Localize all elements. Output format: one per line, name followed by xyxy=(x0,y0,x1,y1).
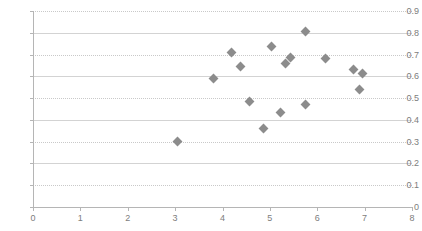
data-point xyxy=(321,54,331,64)
data-point xyxy=(173,137,183,147)
x-tick-label: 7 xyxy=(355,214,375,223)
data-point xyxy=(301,100,311,110)
data-point xyxy=(259,124,269,134)
data-point xyxy=(358,68,368,78)
x-axis-line xyxy=(33,207,412,208)
data-point xyxy=(245,96,255,106)
x-tick-label: 8 xyxy=(402,214,422,223)
x-tick-label: 5 xyxy=(260,214,280,223)
x-tick-label: 4 xyxy=(213,214,233,223)
data-point xyxy=(355,84,365,94)
data-point xyxy=(208,74,218,84)
x-tick-label: 1 xyxy=(70,214,90,223)
data-point xyxy=(301,27,311,37)
x-tick-label: 6 xyxy=(307,214,327,223)
x-tick-label: 0 xyxy=(23,214,43,223)
data-point xyxy=(276,107,286,117)
data-point xyxy=(236,62,246,72)
data-point xyxy=(267,42,277,52)
x-tick-label: 3 xyxy=(165,214,185,223)
data-point xyxy=(227,47,237,57)
x-tick-mark xyxy=(412,207,413,211)
x-tick-label: 2 xyxy=(118,214,138,223)
plot-area xyxy=(33,11,412,207)
